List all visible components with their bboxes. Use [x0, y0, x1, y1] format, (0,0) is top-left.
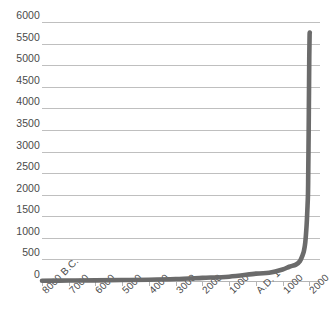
x-axis-tick-label: 6000	[93, 272, 117, 296]
gridline	[42, 65, 320, 66]
y-axis-tick-label: 6000	[0, 10, 40, 21]
gridline	[42, 44, 320, 45]
y-axis-tick-label: 2000	[0, 183, 40, 194]
y-axis-tick: 1000	[0, 226, 40, 237]
population-curve-path	[42, 33, 310, 281]
y-axis-tick: 5500	[0, 32, 40, 43]
y-axis-tick: 1500	[0, 204, 40, 215]
y-axis-tick: 0	[0, 269, 40, 280]
y-axis-tick: 3000	[0, 140, 40, 151]
y-axis-tick-label: 5000	[0, 53, 40, 64]
gridline	[42, 173, 320, 174]
y-axis-tick: 500	[0, 247, 40, 258]
gridline	[42, 130, 320, 131]
gridline	[42, 87, 320, 88]
y-axis-tick-label: 2500	[0, 161, 40, 172]
y-axis-tick-label: 1000	[0, 226, 40, 237]
gridline	[42, 216, 320, 217]
y-axis-tick-label: 3500	[0, 118, 40, 129]
y-axis-tick: 6000	[0, 10, 40, 21]
x-axis-tick-label: 5000	[120, 272, 144, 296]
population-growth-chart: 6000550050004500400035003000250020001500…	[0, 0, 336, 335]
x-axis-tick-label: 2000	[307, 272, 331, 296]
y-axis-tick-label: 3000	[0, 140, 40, 151]
x-axis-tick-label: 1000	[227, 272, 251, 296]
y-axis-tick-label: 500	[0, 247, 40, 258]
x-axis-tick-label: 2000	[200, 272, 224, 296]
y-axis-tick: 2000	[0, 183, 40, 194]
gridline	[42, 195, 320, 196]
y-axis-tick: 3500	[0, 118, 40, 129]
y-axis-tick-label: 5500	[0, 32, 40, 43]
gridline	[42, 238, 320, 239]
y-axis-tick-label: 4000	[0, 96, 40, 107]
gridline	[42, 22, 320, 23]
x-axis-tick-label: 4000	[147, 272, 171, 296]
y-axis-tick-label: 4500	[0, 75, 40, 86]
y-axis-tick-label: 1500	[0, 204, 40, 215]
gridline	[42, 259, 320, 260]
y-axis-tick: 4500	[0, 75, 40, 86]
gridline	[42, 108, 320, 109]
y-axis-tick: 4000	[0, 96, 40, 107]
x-axis-tick-label: 3000	[174, 272, 198, 296]
x-axis-tick-label: 1000	[281, 272, 305, 296]
y-axis-tick: 2500	[0, 161, 40, 172]
x-axis-tick-label: 7000	[67, 272, 91, 296]
y-axis-tick-label: 0	[0, 269, 40, 280]
y-axis-tick: 5000	[0, 53, 40, 64]
gridline	[42, 152, 320, 153]
